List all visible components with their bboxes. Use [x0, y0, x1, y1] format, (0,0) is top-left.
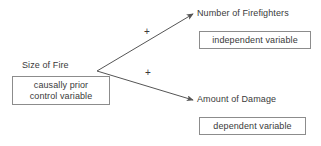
- node-label-size-of-fire: Size of Fire: [22, 60, 69, 71]
- edge-sign-lower: +: [145, 68, 151, 78]
- annotation-box-control-variable: causally prior control variable: [12, 76, 110, 105]
- node-label-amount-of-damage: Amount of Damage: [197, 94, 276, 105]
- edge-sign-upper: +: [144, 27, 150, 37]
- annotation-line-1: independent variable: [212, 35, 298, 46]
- annotation-line-1: causally prior: [34, 80, 88, 91]
- node-label-number-of-firefighters: Number of Firefighters: [197, 8, 289, 19]
- annotation-line-1: dependent variable: [213, 121, 291, 132]
- annotation-line-2: control variable: [30, 91, 93, 102]
- causal-diagram: Size of Fire Number of Firefighters Amou…: [0, 0, 321, 146]
- annotation-box-dependent-variable: dependent variable: [199, 117, 306, 135]
- annotation-box-independent-variable: independent variable: [199, 31, 311, 49]
- edge-cause-to-firefighters: [97, 14, 193, 71]
